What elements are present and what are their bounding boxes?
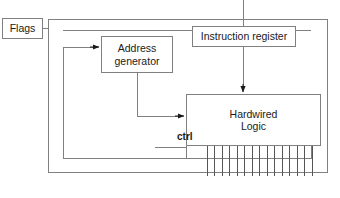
node-hardwired-logic: Hardwired Logic bbox=[186, 94, 321, 146]
node-hardwired-logic-label-line2: Logic bbox=[241, 120, 266, 132]
node-instruction-register-label: Instruction register bbox=[201, 30, 287, 42]
ag-to-logic-line bbox=[137, 73, 182, 116]
node-flags-label: Flags bbox=[10, 22, 36, 34]
node-hardwired-logic-label-line1: Hardwired bbox=[230, 108, 278, 120]
node-instruction-register: Instruction register bbox=[192, 26, 296, 47]
ctrl-label: ctrl bbox=[177, 131, 193, 142]
node-flags: Flags bbox=[2, 18, 43, 39]
diagram-canvas: Flags Address generator Instruction regi… bbox=[0, 0, 340, 198]
node-address-generator: Address generator bbox=[101, 36, 173, 73]
node-address-generator-label-line1: Address bbox=[118, 42, 157, 54]
node-address-generator-label-line2: generator bbox=[115, 55, 160, 67]
